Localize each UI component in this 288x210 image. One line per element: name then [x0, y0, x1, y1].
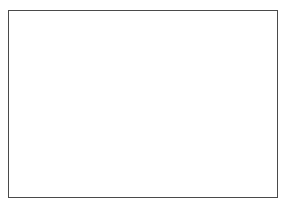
outer-frame — [8, 10, 278, 198]
drawing-canvas — [0, 0, 288, 210]
